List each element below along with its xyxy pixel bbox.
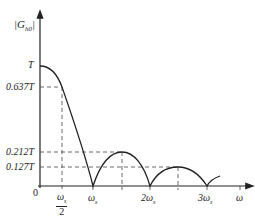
- x-tick-half-ws: ωs 2: [56, 192, 67, 217]
- y-tick-0637T: 0.637T: [6, 81, 34, 92]
- y-tick-T: T: [28, 59, 34, 70]
- x-tick-2ws: 2ωs: [141, 192, 155, 205]
- x-axis-label: ω: [236, 192, 243, 203]
- guide-lines: [40, 87, 240, 190]
- chart-plot: [0, 0, 255, 220]
- zoh-magnitude-chart: |Gh0| T 0.637T 0.212T 0.127T 0 ωs 2 ωs 2…: [0, 0, 255, 220]
- magnitude-curve: [40, 66, 220, 186]
- y-tick-0127T: 0.127T: [6, 161, 34, 172]
- origin-label: 0: [33, 187, 38, 198]
- y-axis-label: |Gh0|: [14, 18, 35, 33]
- x-tick-ws: ωs: [88, 192, 97, 205]
- y-tick-0212T: 0.212T: [6, 146, 34, 157]
- x-tick-3ws: 3ωs: [198, 192, 212, 205]
